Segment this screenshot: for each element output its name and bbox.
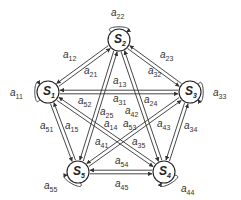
loop-label-a11: a11 (10, 87, 23, 100)
edge-label-a54: a54 (115, 155, 128, 168)
edge-label-a51: a51 (40, 120, 53, 133)
edge-label-a52: a52 (78, 95, 91, 108)
node-s3: S3 (179, 81, 201, 103)
loop-label-a33: a33 (213, 87, 226, 100)
loop-label-a22: a22 (111, 7, 124, 20)
edge-label-a13: a13 (113, 75, 126, 88)
edge-label-a15: a15 (65, 120, 78, 133)
edge-label-a34: a34 (184, 120, 197, 133)
edge-label-a14: a14 (104, 118, 117, 131)
node-s4: S4 (153, 161, 175, 183)
edge-label-a35: a35 (132, 136, 145, 149)
node-s5: S5 (67, 161, 89, 183)
edge-s1-s5 (51, 104, 73, 162)
loop-label-a55: a55 (44, 180, 57, 193)
edge-label-a43: a43 (157, 118, 170, 131)
edge-s3-s4 (166, 103, 185, 160)
edge-label-a41: a41 (95, 136, 108, 149)
edge-label-a21: a21 (84, 65, 97, 78)
edge-label-a45: a45 (115, 178, 128, 191)
edge-label-a53: a53 (123, 118, 136, 131)
edge-s4-s3 (169, 104, 188, 161)
node-s1: S1 (37, 81, 59, 103)
state-transition-diagram: S1S2S3S4S5 a11a22a33a44a55a12a21a13a31a2… (0, 0, 241, 200)
edge-label-a24: a24 (144, 94, 157, 107)
edge-label-a12: a12 (63, 49, 76, 62)
edge-label-a42: a42 (125, 105, 138, 118)
loop-label-a44: a44 (181, 183, 194, 196)
node-s2: S2 (108, 29, 130, 51)
edge-label-a23: a23 (160, 49, 173, 62)
